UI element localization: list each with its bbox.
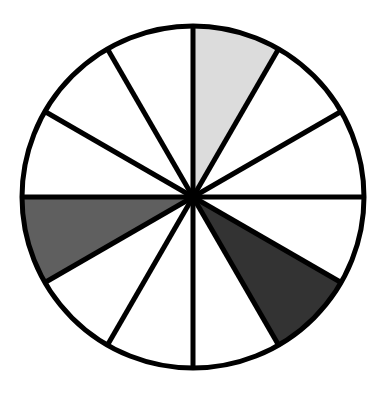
fraction-circle-diagram [0, 0, 386, 393]
pie-svg [0, 0, 386, 393]
center-hub [188, 192, 198, 202]
